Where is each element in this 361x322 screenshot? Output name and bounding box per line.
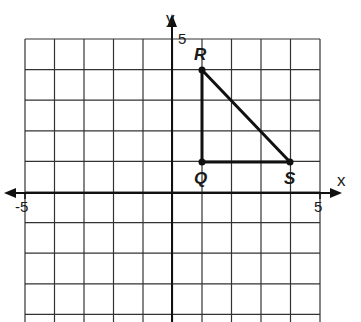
y-axis-label: y bbox=[166, 10, 175, 27]
x-axis-left-arrow-icon bbox=[4, 188, 16, 198]
point-q bbox=[199, 159, 206, 166]
point-q-label: Q bbox=[194, 170, 207, 187]
x-axis-label: x bbox=[337, 172, 346, 189]
x-max-label: 5 bbox=[314, 199, 322, 214]
x-min-label: -5 bbox=[15, 199, 28, 214]
point-r-label: R bbox=[194, 46, 206, 63]
point-r bbox=[199, 67, 206, 74]
coordinate-grid bbox=[0, 0, 361, 322]
triangle-qrs bbox=[202, 70, 290, 162]
point-s bbox=[287, 159, 294, 166]
point-s-label: S bbox=[284, 170, 295, 187]
y-max-label: 5 bbox=[178, 31, 186, 46]
